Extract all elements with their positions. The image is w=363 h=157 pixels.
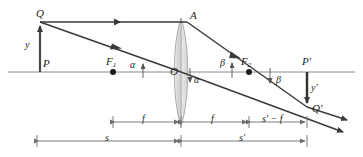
ray-parallel-refracted-arrowhead — [229, 52, 241, 59]
label-point-f1-base: F — [106, 55, 113, 67]
focal-point-f1-dot — [110, 69, 116, 75]
label-point-f1-subscript: 1 — [113, 61, 117, 69]
label-angle-alpha-right: α — [194, 75, 199, 85]
label-dimension-sprime: s′ — [239, 133, 245, 143]
focal-point-f2-dot — [246, 69, 252, 75]
label-point-f2-subscript: 2 — [248, 61, 252, 69]
label-dimension-f-right: f — [211, 114, 214, 124]
label-angle-alpha-left: α — [130, 60, 135, 70]
label-point-o: O — [170, 66, 178, 77]
optics-ray-diagram-figure: Q P F1 O A F2 P′ Q′ y y′ α α β β f f s′ … — [0, 0, 363, 157]
label-point-f1: F1 — [106, 56, 116, 69]
label-angle-beta-right: β — [276, 75, 281, 85]
label-point-q-prime: Q′ — [312, 103, 322, 114]
ray-parallel-arrowhead — [114, 19, 121, 26]
label-point-q: Q — [36, 8, 44, 19]
label-point-p: P — [43, 58, 50, 69]
label-dimension-f-left: f — [142, 114, 145, 124]
label-image-height-y-prime: y′ — [311, 83, 318, 93]
label-point-p-prime: P′ — [302, 56, 311, 67]
ray-chief-arrowhead — [110, 44, 122, 50]
diagram-canvas — [0, 0, 363, 157]
label-dimension-s: s — [105, 133, 109, 143]
label-dimension-sprime-minus-f: s′ − f — [262, 114, 283, 124]
label-point-f2: F2 — [241, 56, 251, 69]
label-point-f2-base: F — [241, 55, 248, 67]
label-point-a: A — [190, 10, 197, 21]
label-angle-beta-left: β — [220, 58, 225, 68]
label-object-height-y: y — [25, 40, 29, 50]
